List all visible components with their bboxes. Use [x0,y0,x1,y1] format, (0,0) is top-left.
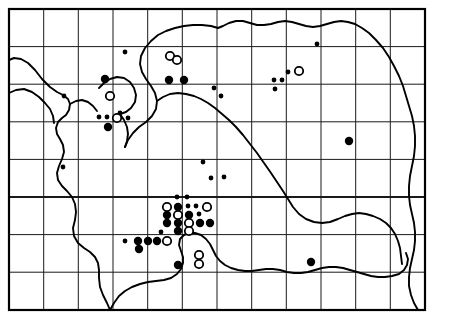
large-filled-dot [180,76,188,84]
small-filled-dot [186,204,191,209]
open-circle [113,114,121,122]
large-filled-dot [174,261,182,269]
small-filled-dot [273,87,278,92]
large-filled-dot [165,76,173,84]
open-circle [173,56,181,64]
large-filled-dot [196,219,204,227]
small-filled-dot [61,165,66,170]
small-filled-dot [62,94,67,99]
large-filled-dot [144,237,152,245]
large-filled-dot [135,245,143,253]
open-circle [195,251,203,259]
open-circle [163,203,171,211]
small-filled-dot [201,160,206,165]
large-filled-dot [174,219,182,227]
small-filled-dot [126,116,131,121]
small-filled-dot [123,239,128,244]
small-filled-dot [212,86,217,91]
small-filled-dot [219,94,224,99]
small-filled-dot [209,176,214,181]
small-filled-dot [175,195,180,200]
large-filled-dot [153,237,161,245]
large-filled-dot [101,75,109,83]
small-filled-dot [185,195,190,200]
map-canvas [0,0,464,319]
small-filled-dot [222,175,227,180]
open-circle [295,67,303,75]
open-circle [195,260,203,268]
small-filled-dot [159,230,164,235]
distribution-map [0,0,464,319]
small-filled-dot [197,212,202,217]
open-circle [163,237,171,245]
small-filled-dot [105,115,110,120]
open-circle [185,227,193,235]
large-filled-dot [345,137,353,145]
small-filled-dot [286,70,291,75]
large-filled-dot [134,237,142,245]
open-circle [106,92,114,100]
small-filled-dot [280,78,285,83]
large-filled-dot [307,258,315,266]
large-filled-dot [206,219,214,227]
large-filled-dot [163,219,171,227]
open-circle [203,203,211,211]
small-filled-dot [123,50,128,55]
large-filled-dot [104,123,112,131]
large-filled-dot [174,227,182,235]
open-circle [174,211,182,219]
large-filled-dot [163,211,171,219]
small-filled-dot [272,78,277,83]
small-filled-dot [97,115,102,120]
small-filled-dot [315,42,320,47]
small-filled-dot [194,204,199,209]
